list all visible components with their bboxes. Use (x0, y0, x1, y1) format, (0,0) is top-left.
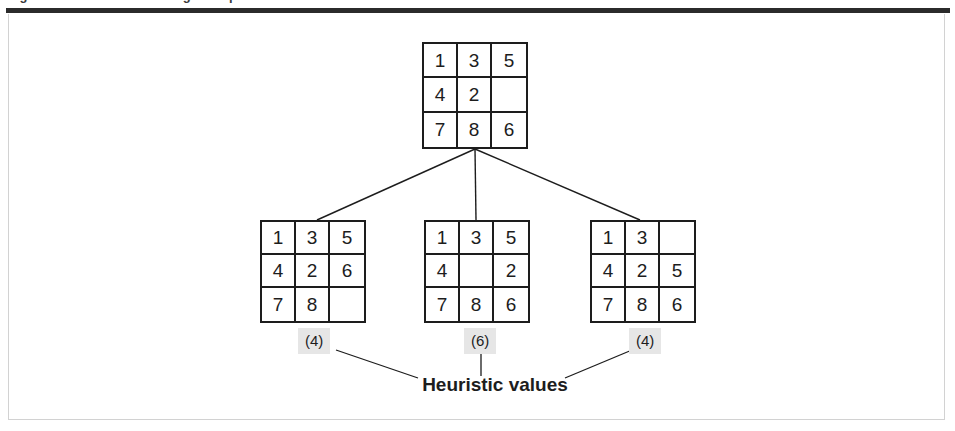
tile-cell: 4 (592, 255, 626, 288)
tile-cell: 4 (426, 255, 460, 288)
tile-cell: 5 (330, 222, 364, 255)
tile-cell: 3 (458, 44, 492, 78)
tile-cell: 5 (492, 44, 526, 78)
tile-cell: 5 (660, 255, 694, 288)
puzzle-grid-child-left: 1 3 5 4 2 6 7 8 (260, 220, 366, 323)
tile-cell: 6 (494, 288, 528, 321)
tile-cell: 8 (460, 288, 494, 321)
puzzle-grid-root: 1 3 5 4 2 7 8 6 (422, 42, 528, 149)
tile-cell: 7 (592, 288, 626, 321)
puzzle-grid-child-middle: 1 3 5 4 2 7 8 6 (424, 220, 530, 323)
tile-cell: 2 (626, 255, 660, 288)
tile-cell: 8 (458, 113, 492, 147)
tile-cell: 1 (262, 222, 296, 255)
tile-cell: 6 (660, 288, 694, 321)
tile-cell: 4 (424, 78, 458, 112)
tile-cell: 8 (296, 288, 330, 321)
tile-cell-blank (330, 288, 364, 321)
tile-cell: 6 (492, 113, 526, 147)
tile-cell: 7 (262, 288, 296, 321)
tile-cell: 1 (424, 44, 458, 78)
puzzle-grid-child-right: 1 3 4 2 5 7 8 6 (590, 220, 696, 323)
tile-cell: 2 (296, 255, 330, 288)
tile-cell: 6 (330, 255, 364, 288)
tile-cell: 2 (458, 78, 492, 112)
heuristic-values-label: Heuristic values (395, 374, 595, 396)
tile-cell: 8 (626, 288, 660, 321)
tile-cell-blank (492, 78, 526, 112)
tile-cell: 3 (626, 222, 660, 255)
figure-caption: Figure Heuristic search using the 8-puzz… (8, 0, 269, 3)
tile-cell: 3 (296, 222, 330, 255)
figure-container: Figure Heuristic search using the 8-puzz… (0, 0, 955, 431)
top-rule-divider (6, 8, 950, 13)
tile-cell: 4 (262, 255, 296, 288)
tile-cell-blank (660, 222, 694, 255)
tile-cell: 7 (426, 288, 460, 321)
tile-cell-blank (460, 255, 494, 288)
tile-cell: 1 (426, 222, 460, 255)
tile-cell: 1 (592, 222, 626, 255)
heuristic-value-badge-right: (4) (629, 328, 661, 354)
tile-cell: 5 (494, 222, 528, 255)
heuristic-value-badge-left: (4) (298, 328, 330, 354)
tile-cell: 2 (494, 255, 528, 288)
tile-cell: 3 (460, 222, 494, 255)
tile-cell: 7 (424, 113, 458, 147)
figure-caption-clip: Figure Heuristic search using the 8-puzz… (0, 0, 955, 6)
heuristic-value-badge-middle: (6) (464, 328, 496, 354)
